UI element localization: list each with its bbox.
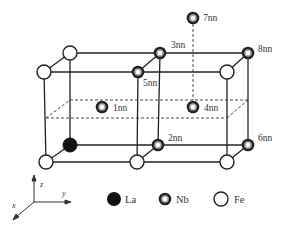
nb-atoms xyxy=(96,12,255,152)
nb-atom-2nn xyxy=(152,139,165,152)
label-3nn: 3nn xyxy=(171,40,186,50)
nb-atom-7nn xyxy=(187,12,200,25)
nb-atom-3nn xyxy=(154,47,167,60)
nb-atom-4nn xyxy=(187,101,200,114)
la-atom xyxy=(63,138,77,152)
legend-fe-label: Fe xyxy=(234,194,245,205)
label-1nn: 1nn xyxy=(113,103,128,113)
nb-atom-8nn xyxy=(242,47,255,60)
nb-atom-5nn xyxy=(132,66,145,79)
label-8nn: 8nn xyxy=(258,44,273,54)
crystal-structure-diagram: 7nn 3nn 8nn 5nn 1nn 4nn 2nn 6nn z y x La… xyxy=(0,0,284,229)
nb-atom-6nn xyxy=(242,139,255,152)
legend-la-symbol xyxy=(107,192,121,206)
label-5nn: 5nn xyxy=(143,78,158,88)
label-7nn: 7nn xyxy=(203,13,218,23)
legend: La Nb Fe xyxy=(107,192,245,206)
legend-la-label: La xyxy=(125,194,136,205)
label-2nn: 2nn xyxy=(168,133,183,143)
axis-z-label: z xyxy=(39,180,44,189)
axis-y-label: y xyxy=(61,189,66,198)
legend-fe-symbol xyxy=(214,192,228,206)
axis-x-label: x xyxy=(11,201,16,210)
label-4nn: 4nn xyxy=(204,103,219,113)
nb-atom-1nn xyxy=(96,101,109,114)
label-6nn: 6nn xyxy=(258,133,273,143)
legend-nb-label: Nb xyxy=(176,194,189,205)
